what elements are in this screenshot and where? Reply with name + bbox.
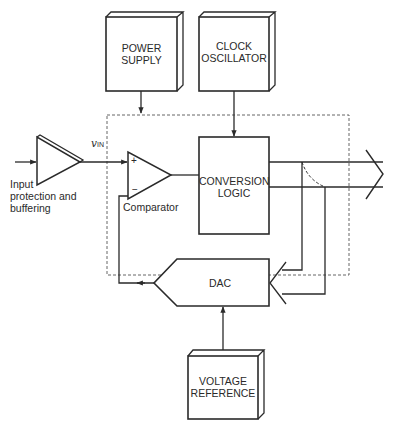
power-supply-label: POWER SUPPLY (106, 42, 177, 66)
comparator-label: Comparator (123, 201, 178, 213)
vin-label: vIN (91, 137, 104, 151)
input-line3: buffering (10, 202, 77, 214)
vref-line2: REFERENCE (188, 387, 258, 399)
dac-label: DAC (190, 277, 250, 289)
comparator-plus: + (131, 155, 137, 167)
conversion-line2: LOGIC (199, 187, 269, 199)
vref-line1: VOLTAGE (188, 375, 258, 387)
input-line1: Input (10, 178, 77, 190)
power-supply-line1: POWER (106, 42, 177, 54)
comparator-minus: − (132, 184, 138, 196)
conversion-line1: CONVERSION (199, 175, 269, 187)
input-line2: protection and (10, 190, 77, 202)
conversion-logic-label: CONVERSION LOGIC (199, 175, 269, 199)
bus-arrowhead (366, 150, 383, 199)
power-supply-line2: SUPPLY (106, 54, 177, 66)
clock-line1: CLOCK (199, 40, 269, 52)
clock-line2: OSCILLATOR (199, 52, 269, 64)
vin-sub: IN (97, 141, 104, 148)
clock-oscillator-label: CLOCK OSCILLATOR (199, 40, 269, 64)
input-buffer-label: Input protection and buffering (10, 178, 77, 214)
bus-dashed-curve (302, 162, 325, 187)
voltage-reference-label: VOLTAGE REFERENCE (188, 375, 258, 399)
tap-line-1 (282, 162, 302, 270)
dac-input-chevron (270, 262, 286, 304)
tap-line-2 (282, 187, 325, 294)
